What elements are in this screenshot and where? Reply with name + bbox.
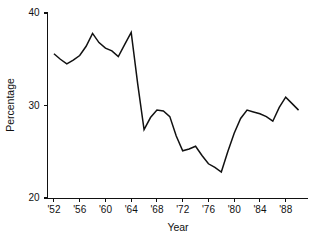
x-tick-label: '56	[73, 204, 86, 215]
y-axis: 203040	[28, 7, 47, 203]
x-tick-label: '88	[279, 204, 292, 215]
y-axis-title: Percentage	[4, 78, 16, 132]
chart-canvas: 203040 '52'56'60'64'68'72'76'80'84'88 Ye…	[0, 0, 313, 240]
x-axis: '52'56'60'64'68'72'76'80'84'88	[47, 198, 308, 215]
x-tick-label: '84	[253, 204, 266, 215]
x-tick-label: '72	[176, 204, 189, 215]
x-tick-label: '68	[150, 204, 163, 215]
x-tick-label: '64	[125, 204, 138, 215]
line-chart: 203040 '52'56'60'64'68'72'76'80'84'88 Ye…	[0, 0, 313, 240]
y-tick-label-group: 203040	[28, 7, 40, 203]
x-tick-label: '60	[99, 204, 112, 215]
x-axis-title: Year	[167, 221, 189, 233]
y-tick-label: 30	[28, 100, 40, 111]
y-tick-label: 40	[28, 7, 40, 18]
x-tick-label: '80	[228, 204, 241, 215]
x-tick-label-group: '52'56'60'64'68'72'76'80'84'88	[47, 204, 292, 215]
x-tick-label: '76	[202, 204, 215, 215]
y-tick-label: 20	[28, 192, 40, 203]
series-line-percentage	[54, 32, 299, 172]
y-tick-group	[44, 13, 48, 198]
x-tick-label: '52	[47, 204, 60, 215]
